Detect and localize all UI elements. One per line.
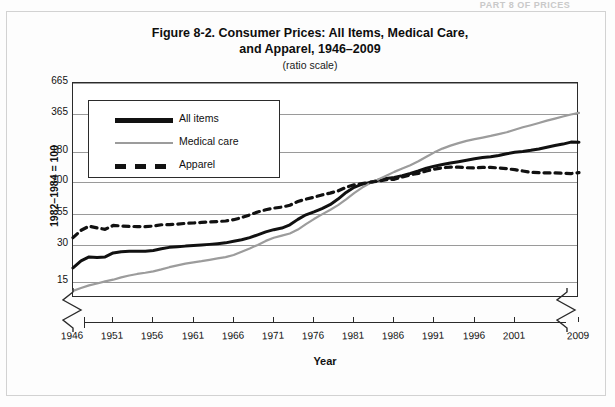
y-tick-label: 180 xyxy=(22,144,68,155)
legend-item: Medical care xyxy=(89,132,279,154)
x-tick-mark xyxy=(578,317,579,322)
y-tick-label: 15 xyxy=(22,274,68,285)
y-tick-label: 365 xyxy=(22,106,68,117)
x-tick-label: 1981 xyxy=(342,329,365,341)
x-tick-label: 1946 xyxy=(61,329,84,341)
x-tick-label: 1961 xyxy=(181,329,204,341)
x-tick-mark xyxy=(393,317,394,322)
x-tick-mark xyxy=(474,317,475,322)
y-tick-label: 665 xyxy=(22,75,68,86)
y-tick-label: 100 xyxy=(22,174,68,185)
x-tick-label: 2009 xyxy=(567,329,590,341)
x-tick-label: 1976 xyxy=(302,329,325,341)
x-tick-mark xyxy=(193,317,194,322)
y-tick-label: 30 xyxy=(22,237,68,248)
figure-title: Figure 8-2. Consumer Prices: All Items, … xyxy=(70,25,550,57)
x-axis-line xyxy=(84,322,566,323)
x-tick-label: 1966 xyxy=(221,329,244,341)
x-tick-mark xyxy=(433,317,434,322)
figure-page: PART 8 OF PRICES Figure 8-2. Consumer Pr… xyxy=(0,0,615,407)
x-tick-label: 1956 xyxy=(141,329,164,341)
x-tick-mark xyxy=(313,317,314,322)
x-tick-mark xyxy=(152,317,153,322)
legend-swatch xyxy=(115,164,173,169)
legend-item: All items xyxy=(89,109,279,131)
x-tick-mark xyxy=(514,317,515,322)
legend-item: Apparel xyxy=(89,155,279,177)
x-tick-mark xyxy=(273,317,274,322)
running-header: PART 8 OF PRICES xyxy=(440,1,610,9)
x-tick-label: 1986 xyxy=(382,329,405,341)
x-tick-mark xyxy=(112,317,113,322)
legend-swatch xyxy=(115,118,173,123)
x-tick-mark xyxy=(84,317,85,322)
y-tick-label: 55 xyxy=(22,206,68,217)
legend-label: All items xyxy=(179,112,219,124)
figure-title-line2: and Apparel, 1946–2009 xyxy=(70,41,550,57)
x-tick-mark xyxy=(233,317,234,322)
y-axis-break-icon xyxy=(60,288,86,332)
y-axis-title: 1982–1984 = 100 xyxy=(48,126,60,246)
x-tick-label: 1996 xyxy=(462,329,485,341)
x-axis-tick-labels: 1946195119561961196619711976198119861991… xyxy=(72,330,578,352)
x-axis-break-icon xyxy=(554,288,580,332)
figure-subtitle: (ratio scale) xyxy=(70,59,550,71)
x-tick-label: 2001 xyxy=(502,329,525,341)
legend: All itemsMedical careApparel xyxy=(88,100,280,178)
x-tick-label: 1951 xyxy=(101,329,124,341)
x-tick-label: 1991 xyxy=(422,329,445,341)
legend-label: Apparel xyxy=(179,158,215,170)
legend-swatch xyxy=(115,142,173,144)
x-axis-title: Year xyxy=(72,355,578,367)
x-tick-mark xyxy=(353,317,354,322)
legend-label: Medical care xyxy=(179,135,239,147)
figure-title-line1: Figure 8-2. Consumer Prices: All Items, … xyxy=(152,26,468,40)
y-axis-tick-labels: 665365180100553015 xyxy=(18,82,68,297)
x-tick-label: 1971 xyxy=(261,329,284,341)
